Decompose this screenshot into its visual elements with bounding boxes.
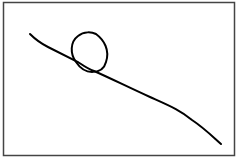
drawing-canvas	[0, 0, 236, 163]
frame-border	[4, 3, 235, 156]
